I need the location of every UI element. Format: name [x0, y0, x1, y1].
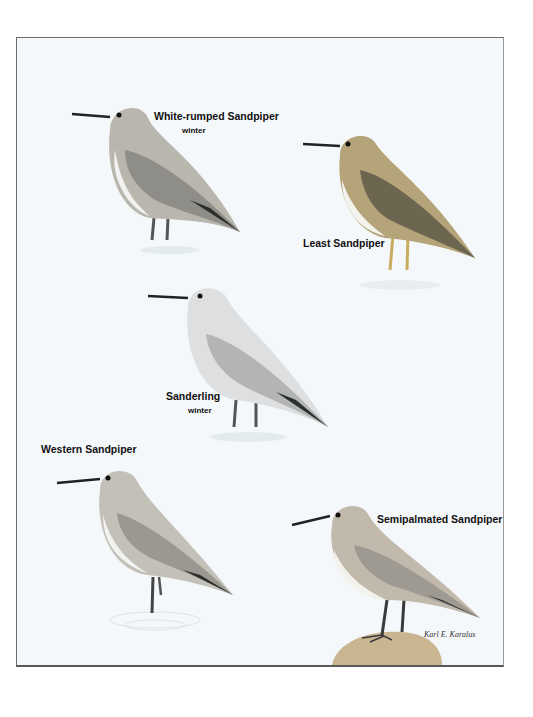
artist-signature: Karl E. Karalus [424, 630, 475, 639]
bird-season-label: winter [182, 126, 206, 135]
bird-least-sandpiper [300, 130, 480, 300]
bird-label: Western Sandpiper [41, 443, 137, 455]
bird-season-label: winter [188, 406, 212, 415]
bird-label: White-rumped Sandpiper [154, 110, 279, 122]
bird-sanderling [148, 282, 333, 457]
bird-label: Semipalmated Sandpiper [377, 513, 502, 525]
bird-semipalmated-sandpiper [292, 500, 487, 670]
bird-label: Sanderling [166, 390, 220, 402]
bird-label: Least Sandpiper [303, 237, 385, 249]
bird-western-sandpiper [55, 465, 240, 650]
bird-white-rumped-sandpiper [70, 100, 250, 270]
